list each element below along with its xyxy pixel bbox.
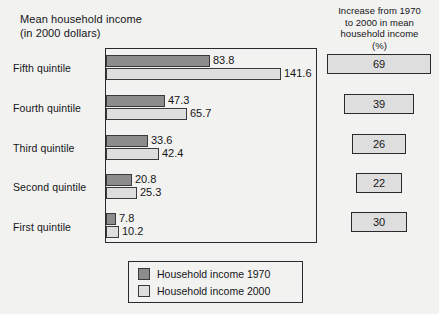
bar-value-2000: 10.2 [119,225,143,238]
legend-swatch-2000-icon [138,285,150,297]
bar-2000 [106,187,137,199]
bar-2000 [106,68,281,80]
category-label: Fourth quintile [13,102,81,114]
bar-1970 [106,213,116,225]
bar-row: 47.3 [106,95,318,107]
bar-1970 [106,174,132,186]
right-panel-title: Increase from 1970 to 2000 in mean house… [322,5,437,51]
bar-row: 20.8 [106,174,318,186]
bar-value-2000: 42.4 [159,147,183,160]
bar-row: 10.2 [106,226,318,238]
bar-1970 [106,135,148,147]
legend-label-2000: Household income 2000 [157,285,270,298]
percent-increase-box: 39 [344,94,414,114]
bar-row: 33.6 [106,135,318,147]
bar-row: 65.7 [106,108,318,120]
bar-value-1970: 7.8 [116,212,134,225]
percent-increase-value: 22 [373,177,385,189]
bar-value-1970: 83.8 [210,54,234,67]
legend-label-1970: Household income 1970 [157,268,270,281]
bar-value-2000: 65.7 [187,107,211,120]
bar-row: 83.8 [106,55,318,67]
percent-increase-value: 69 [373,58,385,70]
category-label: Fifth quintile [13,62,71,74]
percent-increase-box: 69 [327,54,431,74]
percent-increase-value: 39 [373,98,385,110]
category-label: First quintile [13,221,71,233]
bar-2000 [106,108,187,120]
bar-value-2000: 25.3 [137,186,161,199]
percent-increase-box: 22 [356,173,402,193]
category-label: Second quintile [13,181,86,193]
chart-figure: Mean household income (in 2000 dollars) … [0,0,439,314]
bar-row: 7.8 [106,213,318,225]
bar-row: 25.3 [106,187,318,199]
percent-increase-value: 26 [373,138,385,150]
percent-increase-value: 30 [373,216,385,228]
left-panel-title: Mean household income (in 2000 dollars) [20,12,142,40]
category-label: Third quintile [13,142,75,154]
bar-2000 [106,148,159,160]
bar-value-1970: 33.6 [148,134,172,147]
legend-swatch-1970-icon [138,268,150,280]
percent-increase-box: 30 [351,212,407,232]
bar-row: 42.4 [106,148,318,160]
bar-value-1970: 20.8 [132,173,156,186]
bar-row: 141.6 [106,68,318,80]
bar-2000 [106,226,119,238]
series-legend: Household income 1970 Household income 2… [128,261,303,303]
bar-1970 [106,55,210,67]
percent-increase-box: 26 [352,134,406,154]
bar-1970 [106,95,165,107]
legend-item-1970: Household income 1970 [138,266,302,282]
bar-value-2000: 141.6 [281,67,312,80]
bar-value-1970: 47.3 [165,94,189,107]
legend-item-2000: Household income 2000 [138,283,302,299]
